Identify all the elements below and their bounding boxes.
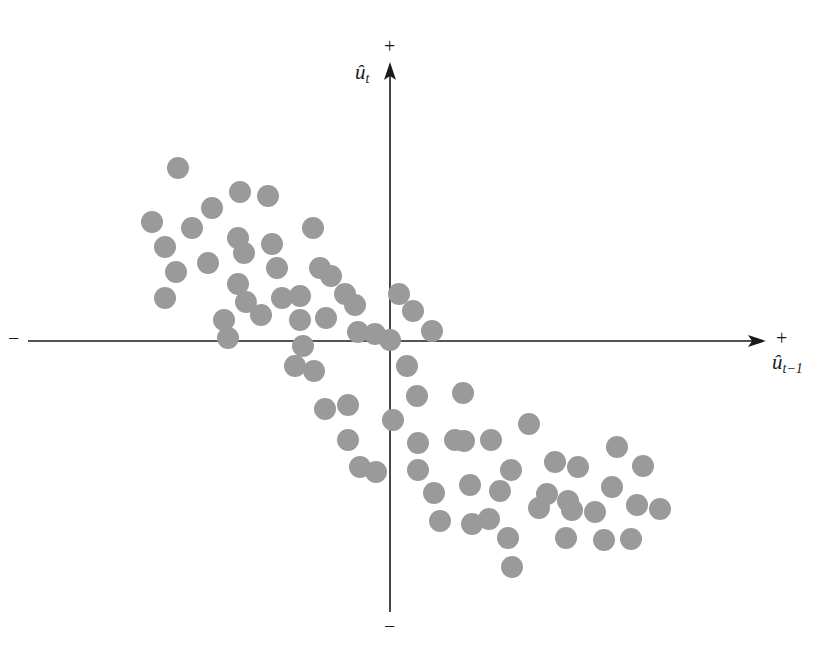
- scatter-point: [388, 283, 410, 305]
- scatter-point: [167, 157, 189, 179]
- y-axis-label-symbol: û: [355, 62, 366, 83]
- scatter-point: [261, 233, 283, 255]
- scatter-point: [141, 211, 163, 233]
- scatter-point: [632, 455, 654, 477]
- plot-canvas: [0, 0, 833, 652]
- scatter-point: [423, 482, 445, 504]
- scatter-point: [154, 287, 176, 309]
- scatter-point: [337, 394, 359, 416]
- scatter-point: [429, 510, 451, 532]
- y-axis-positive-sign: +: [384, 36, 395, 56]
- scatter-point: [344, 294, 366, 316]
- scatter-point: [626, 494, 648, 516]
- x-axis-label-symbol: û: [772, 352, 783, 373]
- scatter-point: [396, 355, 418, 377]
- scatter-point: [544, 451, 566, 473]
- scatter-point: [197, 252, 219, 274]
- scatter-point: [337, 429, 359, 451]
- scatter-point: [165, 261, 187, 283]
- scatter-point: [459, 474, 481, 496]
- scatter-point: [444, 429, 466, 451]
- scatter-point: [567, 456, 589, 478]
- scatter-points-group: [141, 157, 671, 578]
- y-axis-negative-sign: −: [384, 616, 395, 636]
- scatter-point: [593, 529, 615, 551]
- scatter-point: [382, 409, 404, 431]
- scatter-point: [497, 527, 519, 549]
- scatter-point: [528, 497, 550, 519]
- scatter-point: [561, 499, 583, 521]
- scatter-point: [314, 398, 336, 420]
- scatter-point: [284, 355, 306, 377]
- scatter-point: [406, 385, 428, 407]
- scatter-point: [315, 307, 337, 329]
- scatter-point: [217, 327, 239, 349]
- scatter-point: [402, 300, 424, 322]
- scatter-point: [266, 257, 288, 279]
- scatter-point: [489, 480, 511, 502]
- scatter-point: [289, 285, 311, 307]
- y-axis-label: ût: [355, 62, 369, 86]
- scatter-point: [500, 459, 522, 481]
- scatter-plot-figure: ût ût−1 + − + −: [0, 0, 833, 652]
- scatter-point: [478, 508, 500, 530]
- x-axis-positive-sign: +: [776, 328, 787, 348]
- scatter-point: [292, 335, 314, 357]
- y-axis-label-subscript: t: [366, 71, 370, 86]
- scatter-point: [555, 527, 577, 549]
- scatter-point: [584, 501, 606, 523]
- scatter-point: [620, 528, 642, 550]
- scatter-point: [233, 242, 255, 264]
- x-axis-label: ût−1: [772, 352, 803, 376]
- scatter-point: [606, 436, 628, 458]
- scatter-point: [154, 236, 176, 258]
- scatter-point: [320, 265, 342, 287]
- scatter-point: [302, 217, 324, 239]
- scatter-point: [407, 459, 429, 481]
- x-axis-label-subscript: t−1: [783, 361, 803, 376]
- scatter-point: [379, 329, 401, 351]
- scatter-point: [181, 217, 203, 239]
- scatter-point: [201, 197, 223, 219]
- scatter-point: [501, 556, 523, 578]
- scatter-point: [649, 498, 671, 520]
- scatter-point: [407, 432, 429, 454]
- scatter-point: [303, 360, 325, 382]
- scatter-point: [601, 476, 623, 498]
- scatter-point: [452, 382, 474, 404]
- scatter-point: [518, 413, 540, 435]
- scatter-point: [257, 185, 279, 207]
- scatter-point: [229, 181, 251, 203]
- scatter-point: [365, 461, 387, 483]
- scatter-point: [480, 429, 502, 451]
- scatter-point: [250, 304, 272, 326]
- scatter-point: [289, 309, 311, 331]
- x-axis-negative-sign: −: [8, 328, 19, 348]
- scatter-point: [421, 320, 443, 342]
